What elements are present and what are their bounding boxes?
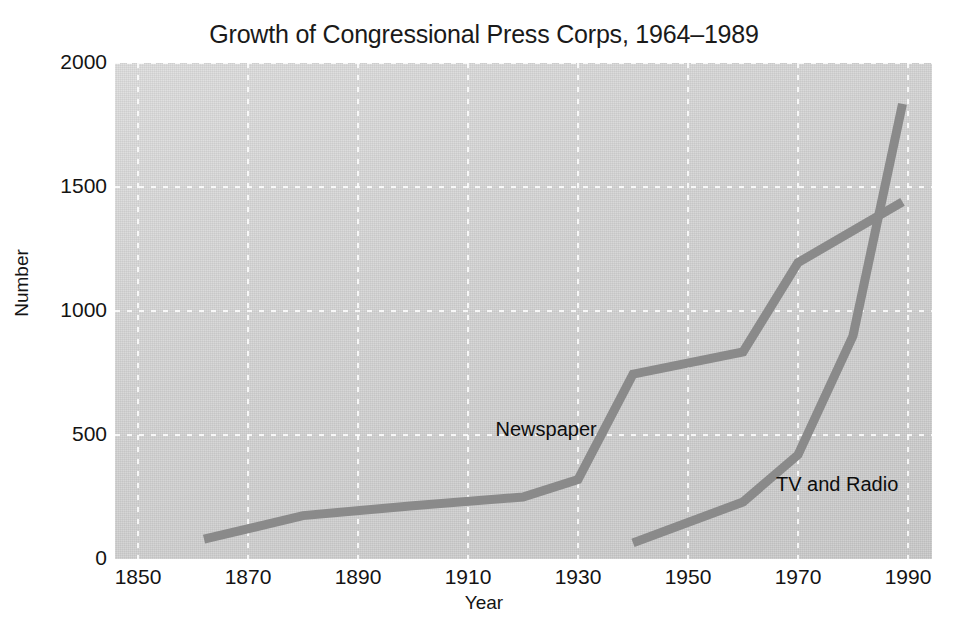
x-axis-tick-label: 1870 (188, 565, 308, 589)
y-axis-tick-label: 1500 (7, 174, 107, 198)
horizontal-gridlines (115, 63, 932, 435)
y-axis-title: Number (11, 223, 33, 343)
x-axis-tick-label: 1850 (78, 565, 198, 589)
chart-figure: Growth of Congressional Press Corps, 196… (0, 0, 968, 626)
x-axis-tick-label: 1950 (628, 565, 748, 589)
x-axis-tick-label: 1890 (298, 565, 418, 589)
series-label: Newspaper (496, 418, 597, 441)
y-axis-tick-label: 500 (7, 422, 107, 446)
x-axis-tick-label: 1930 (518, 565, 638, 589)
x-axis-tick-label: 1970 (738, 565, 858, 589)
x-axis-title: Year (0, 592, 968, 614)
x-axis-tick-label: 1910 (408, 565, 528, 589)
chart-title: Growth of Congressional Press Corps, 196… (0, 20, 968, 49)
x-axis-tick-label: 1990 (848, 565, 968, 589)
series-label: TV and Radio (776, 473, 898, 496)
y-axis-tick-label: 2000 (7, 50, 107, 74)
